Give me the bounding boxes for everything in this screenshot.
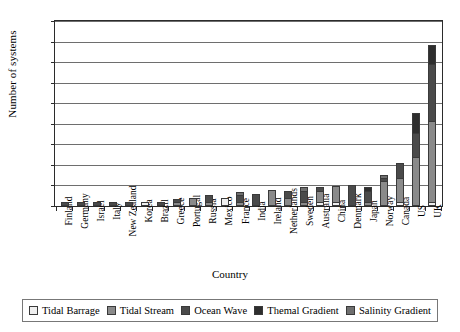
bar-group[interactable]	[105, 21, 121, 206]
bar-group[interactable]	[89, 21, 105, 206]
bar-group[interactable]	[73, 21, 89, 206]
stacked-bar[interactable]	[141, 203, 149, 206]
bar-group[interactable]	[185, 21, 201, 206]
bar-segment[interactable]	[412, 157, 420, 206]
legend-item[interactable]: Themal Gradient	[254, 305, 338, 316]
bar-group[interactable]	[280, 21, 296, 206]
bar-segment[interactable]	[428, 45, 436, 66]
bar-group[interactable]	[137, 21, 153, 206]
bar-segment[interactable]	[141, 202, 149, 206]
x-label-slot: Ireland	[265, 211, 281, 269]
bar-group[interactable]	[201, 21, 217, 206]
legend-item[interactable]: Tidal Stream	[107, 305, 174, 316]
bar-segment[interactable]	[396, 163, 404, 179]
legend-item[interactable]: Salinity Gradient	[346, 305, 431, 316]
bar-group[interactable]	[169, 21, 185, 206]
stacked-bar[interactable]	[396, 164, 404, 206]
bar-segment[interactable]	[157, 202, 165, 206]
stacked-bar[interactable]	[93, 203, 101, 206]
bar-segment[interactable]	[412, 133, 420, 158]
bar-segment[interactable]	[109, 202, 117, 206]
bar-group[interactable]	[328, 21, 344, 206]
stacked-bar[interactable]	[316, 188, 324, 206]
legend-label: Salinity Gradient	[359, 305, 431, 316]
bar-segment[interactable]	[412, 113, 420, 134]
bar-group[interactable]	[344, 21, 360, 206]
bar-segment[interactable]	[93, 202, 101, 206]
bar-segment[interactable]	[284, 198, 292, 206]
legend-swatch	[254, 306, 263, 315]
bar-segment[interactable]	[380, 181, 388, 206]
bar-segment[interactable]	[364, 202, 372, 206]
chart-root: Number of systems 051015202530354045 Fin…	[0, 0, 460, 332]
bar-segment[interactable]	[332, 186, 340, 202]
bar-group[interactable]	[217, 21, 233, 206]
x-label-slot: US	[409, 211, 425, 269]
x-label-slot: New Zealand	[120, 211, 136, 269]
stacked-bar[interactable]	[236, 193, 244, 206]
bar-segment[interactable]	[252, 194, 260, 206]
legend-swatch	[181, 306, 190, 315]
bar-segment[interactable]	[125, 202, 133, 206]
bar-segment[interactable]	[189, 198, 197, 206]
bar-segment[interactable]	[316, 202, 324, 206]
bar-group[interactable]	[121, 21, 137, 206]
stacked-bar[interactable]	[268, 191, 276, 206]
bar-segment[interactable]	[396, 178, 404, 203]
legend-label: Ocean Wave	[194, 305, 247, 316]
bar-segment[interactable]	[396, 202, 404, 206]
stacked-bar[interactable]	[348, 186, 356, 206]
stacked-bar[interactable]	[428, 46, 436, 206]
stacked-bar[interactable]	[380, 176, 388, 206]
bar-segment[interactable]	[428, 64, 436, 122]
bar-group[interactable]	[57, 21, 73, 206]
stacked-bar[interactable]	[77, 203, 85, 206]
stacked-bar[interactable]	[189, 199, 197, 206]
legend-item[interactable]: Ocean Wave	[181, 305, 247, 316]
bar-segment[interactable]	[205, 202, 213, 206]
legend-label: Tidal Barrage	[42, 305, 100, 316]
bar-group[interactable]	[296, 21, 312, 206]
bar-group[interactable]	[392, 21, 408, 206]
bar-segment[interactable]	[428, 121, 436, 203]
bar-segment[interactable]	[268, 190, 276, 206]
stacked-bar[interactable]	[61, 203, 69, 206]
bar-segment[interactable]	[332, 202, 340, 206]
stacked-bar[interactable]	[205, 196, 213, 206]
stacked-bar[interactable]	[332, 187, 340, 206]
bar-segment[interactable]	[428, 202, 436, 206]
bar-group[interactable]	[424, 21, 440, 206]
bar-segment[interactable]	[236, 202, 244, 206]
stacked-bar[interactable]	[364, 188, 372, 206]
stacked-bar[interactable]	[252, 195, 260, 206]
bar-segment[interactable]	[300, 202, 308, 206]
bar-group[interactable]	[360, 21, 376, 206]
bar-segment[interactable]	[348, 185, 356, 206]
stacked-bar[interactable]	[157, 203, 165, 206]
stacked-bar[interactable]	[125, 203, 133, 206]
bar-group[interactable]	[376, 21, 392, 206]
x-label-slot: China	[329, 211, 345, 269]
bar-group[interactable]	[232, 21, 248, 206]
bar-group[interactable]	[312, 21, 328, 206]
bar-segment[interactable]	[173, 202, 181, 206]
legend-label: Themal Gradient	[267, 305, 338, 316]
bar-segment[interactable]	[77, 202, 85, 206]
stacked-bar[interactable]	[109, 203, 117, 206]
bar-segment[interactable]	[61, 202, 69, 206]
legend-swatch	[107, 306, 116, 315]
stacked-bar[interactable]	[173, 200, 181, 206]
stacked-bar[interactable]	[412, 114, 420, 206]
bar-group[interactable]	[264, 21, 280, 206]
stacked-bar[interactable]	[300, 188, 308, 206]
x-label-slot: Canada	[393, 211, 409, 269]
bar-group[interactable]	[248, 21, 264, 206]
x-label-slot: Korea	[136, 211, 152, 269]
bar-group[interactable]	[153, 21, 169, 206]
bar-group[interactable]	[408, 21, 424, 206]
x-label-slot: Greece	[168, 211, 184, 269]
legend-item[interactable]: Tidal Barrage	[29, 305, 100, 316]
stacked-bar[interactable]	[284, 192, 292, 206]
bar-segment[interactable]	[221, 198, 229, 206]
stacked-bar[interactable]	[221, 199, 229, 206]
